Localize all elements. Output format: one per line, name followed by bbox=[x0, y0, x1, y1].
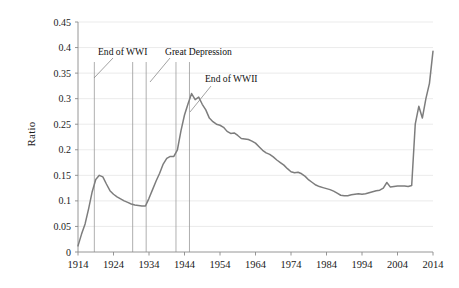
y-tick-label: 0.35 bbox=[54, 68, 72, 79]
y-tick-label: 0.45 bbox=[54, 17, 72, 28]
y-tick-label: 0.4 bbox=[59, 42, 72, 53]
x-tick-label: 1944 bbox=[174, 259, 196, 270]
annotation-great-depression-leader bbox=[150, 58, 170, 82]
y-tick-label: 0.25 bbox=[54, 119, 72, 130]
x-tick-label: 1964 bbox=[245, 259, 267, 270]
y-tick-label: 0 bbox=[66, 247, 71, 258]
x-tick-label: 1974 bbox=[281, 259, 303, 270]
x-tick-label: 1954 bbox=[210, 259, 232, 270]
x-tick-label: 2014 bbox=[423, 259, 445, 270]
x-tick-label: 2004 bbox=[387, 259, 409, 270]
annotation-end-of-wwii-label: End of WWII bbox=[205, 73, 258, 84]
y-tick-label: 0.05 bbox=[54, 221, 72, 232]
x-tick-label: 1914 bbox=[68, 259, 90, 270]
x-tick-label: 1984 bbox=[316, 259, 338, 270]
y-axis-ticks-group: 00.050.10.150.20.250.30.350.40.45 bbox=[54, 17, 79, 258]
annotation-great-depression-label: Great Depression bbox=[165, 46, 232, 57]
y-tick-label: 0.1 bbox=[59, 195, 72, 206]
y-tick-label: 0.3 bbox=[59, 93, 72, 104]
x-tick-label: 1924 bbox=[103, 259, 125, 270]
x-tick-label: 1994 bbox=[352, 259, 374, 270]
y-tick-label: 0.2 bbox=[59, 144, 72, 155]
annotation-end-of-wwi-label: End of WWI bbox=[98, 46, 147, 57]
x-axis-ticks-group: 1914192419341944195419641974198419942004… bbox=[68, 252, 445, 270]
vertical-markers-group bbox=[94, 62, 189, 252]
line-chart-plot: 00.050.10.150.20.250.30.350.40.45 191419… bbox=[0, 0, 459, 288]
chart-container: Ratio 00.050.10.150.20.250.30.350.40.45 … bbox=[0, 0, 459, 288]
x-tick-label: 1934 bbox=[139, 259, 161, 270]
y-tick-label: 0.15 bbox=[54, 170, 72, 181]
annotation-end-of-wwi-leader bbox=[94, 58, 113, 78]
